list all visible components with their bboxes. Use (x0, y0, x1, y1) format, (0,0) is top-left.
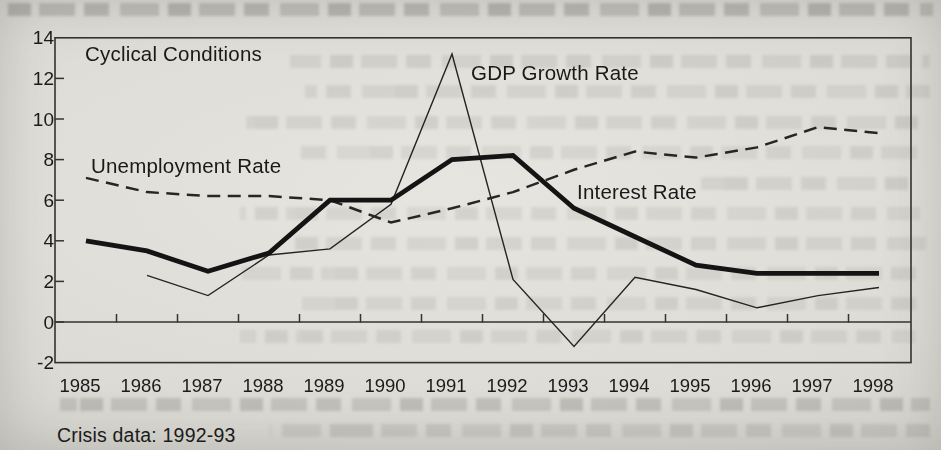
x-axis-label: 1994 (608, 375, 649, 396)
x-axis-label: 1990 (364, 375, 405, 396)
chart-area: 14121086420-2198519861987198819891990199… (0, 0, 941, 450)
y-axis-label: 8 (43, 149, 54, 170)
x-axis-label: 1985 (59, 375, 100, 396)
x-axis-label: 1986 (120, 375, 161, 396)
x-axis-label: 1992 (486, 375, 527, 396)
x-axis-label: 1989 (303, 375, 344, 396)
x-axis-label: 1993 (547, 375, 588, 396)
x-axis-label: 1991 (425, 375, 466, 396)
y-axis-label: 0 (43, 312, 54, 333)
y-axis-label: 4 (43, 230, 54, 251)
y-axis-label: 10 (33, 109, 54, 130)
chart-footnote: Crisis data: 1992-93 (57, 424, 236, 447)
x-axis-label: 1998 (852, 375, 893, 396)
y-axis-label: -2 (37, 352, 54, 373)
x-axis-label: 1987 (181, 375, 222, 396)
x-axis-label: 1997 (791, 375, 832, 396)
x-axis-label: 1988 (242, 375, 283, 396)
series-label-interest-rate: Interest Rate (577, 180, 697, 204)
chart-title: Cyclical Conditions (85, 42, 262, 66)
y-axis-label: 6 (43, 190, 54, 211)
x-axis-label: 1995 (669, 375, 710, 396)
y-axis-label: 14 (33, 27, 55, 48)
y-axis-label: 2 (43, 271, 54, 292)
plot-frame (55, 38, 911, 363)
scanned-page: 14121086420-2198519861987198819891990199… (0, 0, 941, 450)
series-label-unemployment-rate: Unemployment Rate (91, 154, 281, 178)
y-axis-label: 12 (33, 68, 54, 89)
series-line-gdp-growth-rate (147, 54, 879, 346)
x-axis-label: 1996 (730, 375, 771, 396)
series-label-gdp-growth-rate: GDP Growth Rate (471, 61, 639, 85)
